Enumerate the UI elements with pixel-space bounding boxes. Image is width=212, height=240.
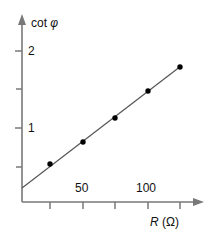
y-axis-arrowhead bbox=[18, 14, 26, 25]
y-axis-title-symbol: φ bbox=[50, 16, 58, 30]
x-axis-title: R (Ω) bbox=[150, 216, 179, 228]
data-point bbox=[80, 139, 85, 144]
chart-figure: cot φ 2 1 50 100 R (Ω) bbox=[0, 0, 212, 240]
y-tick-label-2: 2 bbox=[28, 45, 35, 57]
data-point bbox=[177, 64, 182, 69]
data-point bbox=[112, 115, 117, 120]
y-tick-label-1: 1 bbox=[28, 122, 35, 134]
x-axis-title-unit: (Ω) bbox=[162, 215, 179, 229]
x-tick-label-50: 50 bbox=[75, 182, 88, 194]
data-point bbox=[47, 161, 52, 166]
x-axis-title-symbol: R bbox=[150, 215, 159, 229]
best-fit-line bbox=[22, 66, 181, 188]
y-axis bbox=[18, 14, 26, 202]
y-axis-ticks bbox=[15, 51, 22, 167]
plot-canvas bbox=[0, 0, 212, 240]
data-point bbox=[145, 88, 150, 93]
y-axis-title: cot φ bbox=[31, 17, 58, 29]
x-axis-arrowhead bbox=[193, 198, 204, 206]
x-tick-label-100: 100 bbox=[136, 182, 156, 194]
y-axis-title-text: cot bbox=[31, 16, 47, 30]
x-axis-ticks bbox=[50, 202, 180, 209]
